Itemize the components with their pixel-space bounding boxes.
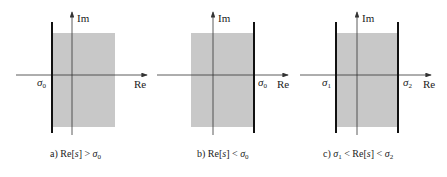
imag-axis-label: Im (362, 12, 375, 24)
caption-c: c) σ1 < Re[s] < σ2 (323, 148, 394, 161)
panel-c: Im Re σ1 σ2 c) σ1 < Re[s] < σ2 (300, 12, 435, 161)
real-axis-label: Re (134, 78, 146, 90)
panel-b: Im Re σ0 b) Re[s] < σ0 (157, 12, 289, 161)
imag-axis-label: Im (218, 12, 231, 24)
boundary-label-sigma2: σ2 (403, 76, 412, 90)
boundary-label-sigma0: σ0 (37, 76, 46, 90)
imag-axis-label: Im (77, 12, 90, 24)
boundary-label-sigma1: σ1 (322, 76, 331, 90)
roc-region (52, 33, 115, 127)
roc-region (191, 33, 254, 127)
panel-a: Im Re σ0 a) Re[s] > σ0 (16, 12, 147, 161)
roc-diagram: Im Re σ0 a) Re[s] > σ0 Im Re σ0 b) Re[s]… (0, 0, 447, 177)
real-axis-label: Re (277, 78, 289, 90)
caption-a: a) Re[s] > σ0 (50, 148, 102, 161)
boundary-label-sigma0: σ0 (258, 76, 267, 90)
caption-b: b) Re[s] < σ0 (197, 148, 249, 161)
roc-region (336, 33, 398, 127)
real-axis-label: Re (423, 78, 435, 90)
